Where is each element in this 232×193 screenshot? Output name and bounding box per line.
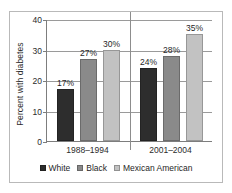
legend-item[interactable]: Mexican American <box>114 163 192 173</box>
bar[interactable] <box>103 50 120 142</box>
chart-figure: Percent with diabetes 010203040 17%27%30… <box>0 0 232 193</box>
bar-value-label: 30% <box>103 39 120 49</box>
y-tick-label: 10 <box>26 107 42 117</box>
legend-label: Black <box>86 163 107 173</box>
legend-label: Mexican American <box>123 163 192 173</box>
legend-swatch-icon <box>114 165 120 171</box>
bar-value-label: 17% <box>57 78 74 88</box>
bar[interactable] <box>140 68 157 141</box>
bar-value-label: 24% <box>140 57 157 67</box>
y-tick-label: 0 <box>26 137 42 147</box>
bar-item[interactable]: 35% <box>186 34 203 141</box>
bar-item[interactable]: 17% <box>57 89 74 141</box>
y-tick-label: 30 <box>26 46 42 56</box>
bar[interactable] <box>80 59 97 141</box>
y-tick-label: 20 <box>26 76 42 86</box>
legend-item[interactable]: White <box>40 163 71 173</box>
bar-value-label: 35% <box>186 23 203 33</box>
bar-item[interactable]: 27% <box>80 59 97 141</box>
bar[interactable] <box>57 89 74 141</box>
x-tick-label: 2001–2004 <box>149 145 192 155</box>
bar-group: 17%27%30% <box>47 20 130 141</box>
bar[interactable] <box>163 56 180 141</box>
bar-item[interactable]: 28% <box>163 56 180 141</box>
bar-group: 24%28%35% <box>130 20 213 141</box>
legend-label: White <box>49 163 71 173</box>
bar-value-label: 27% <box>80 48 97 58</box>
bar-item[interactable]: 30% <box>103 50 120 142</box>
chart-legend: WhiteBlackMexican American <box>9 163 223 173</box>
legend-item[interactable]: Black <box>77 163 107 173</box>
x-tick-label: 1988–1994 <box>66 145 109 155</box>
bar[interactable] <box>186 34 203 141</box>
y-tick-mark <box>43 142 47 143</box>
plot-area: 17%27%30%24%28%35% <box>46 20 212 142</box>
bar-item[interactable]: 24% <box>140 68 157 141</box>
y-tick-label: 40 <box>26 15 42 25</box>
legend-swatch-icon <box>40 165 46 171</box>
bar-value-label: 28% <box>163 45 180 55</box>
x-axis-tick-labels: 1988–19942001–2004 <box>46 145 212 159</box>
legend-swatch-icon <box>77 165 83 171</box>
